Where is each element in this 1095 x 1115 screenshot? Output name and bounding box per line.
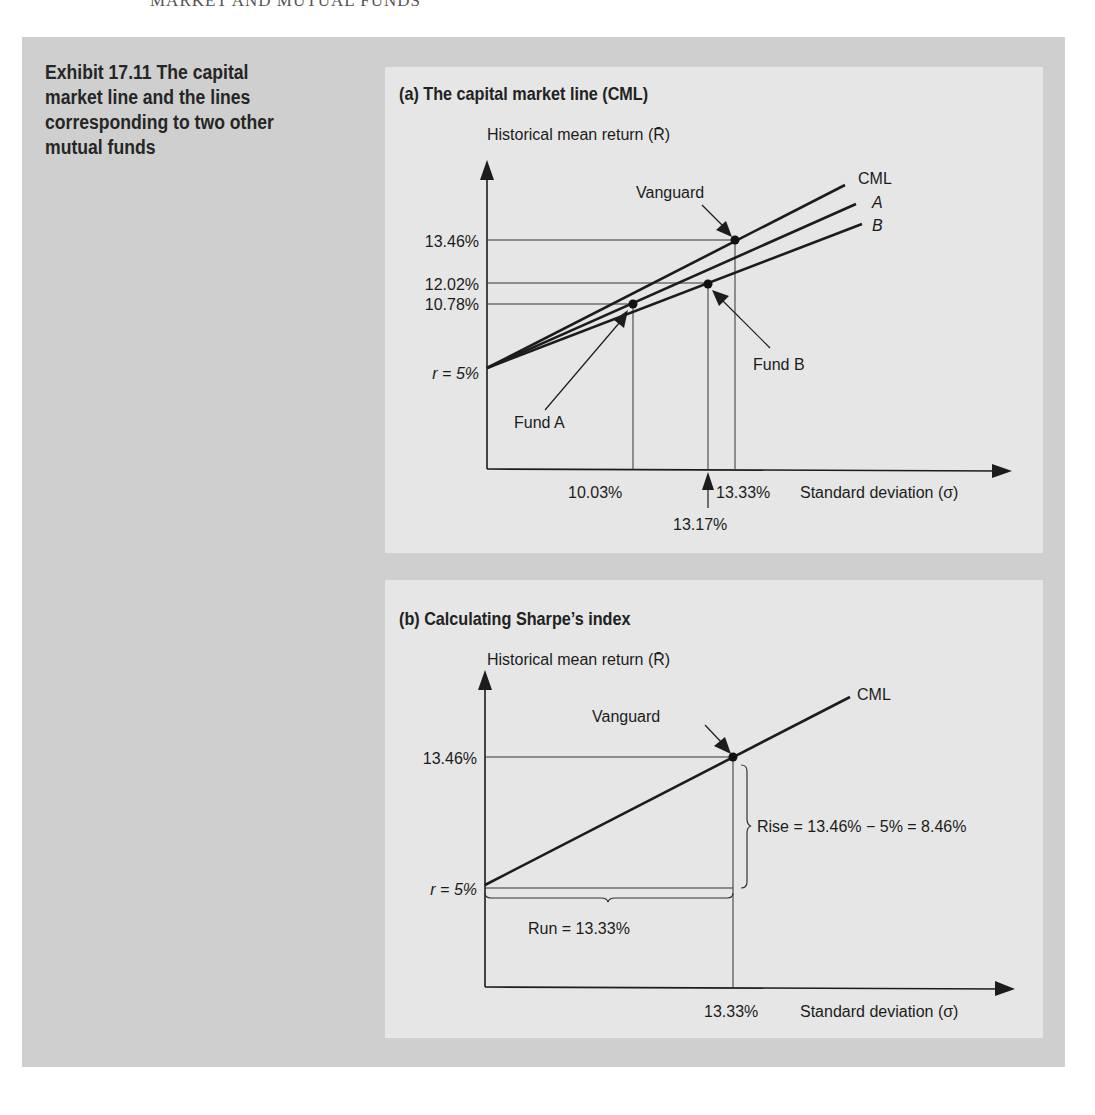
panel-b-y-axis-label: Historical mean return (R̄) (487, 651, 670, 668)
panel-b: (b) Calculating Sharpe’s index Historica… (385, 580, 1043, 1038)
y-axis-arrow-icon (478, 670, 492, 690)
fund-b-arrow-icon (712, 290, 729, 306)
x-tick-13-33: 13.33% (716, 484, 770, 501)
running-header: MARKET AND MUTUAL FUNDS (150, 0, 421, 11)
cml-label: CML (858, 170, 892, 187)
x-tick-13-33: 13.33% (704, 1003, 758, 1020)
exhibit-title-line: mutual funds (45, 135, 335, 160)
y-tick-13-46: 13.46% (423, 750, 477, 767)
y-tick-10-78: 10.78% (425, 296, 479, 313)
panel-a-title: (a) The capital market line (CML) (399, 84, 648, 104)
y-tick-13-46: 13.46% (425, 233, 479, 250)
rise-label: Rise = 13.46% − 5% = 8.46% (757, 818, 966, 835)
x-axis-arrow-icon (992, 464, 1012, 478)
exhibit-title: Exhibit 17.11 The capital market line an… (45, 60, 335, 160)
line-b (487, 224, 862, 368)
vanguard-point (729, 753, 738, 762)
panel-b-chart: (b) Calculating Sharpe’s index Historica… (385, 580, 1043, 1038)
vanguard-label: Vanguard (636, 184, 704, 201)
line-a (487, 204, 856, 368)
cml-line (487, 185, 845, 368)
y-tick-rf: r = 5% (432, 365, 479, 382)
exhibit-title-line: market line and the lines (45, 85, 335, 110)
cml-line (485, 697, 850, 885)
cml-label: CML (857, 686, 891, 703)
vanguard-arrow-icon (716, 221, 732, 237)
x-axis-arrow-icon (995, 981, 1015, 996)
y-axis-arrow-icon (480, 160, 494, 180)
line-b-label: B (872, 217, 883, 234)
y-tick-rf: r = 5% (430, 881, 477, 898)
panel-a-chart: (a) The capital market line (CML) Histor… (385, 67, 1043, 553)
x-tick-10-03: 10.03% (568, 484, 622, 501)
panel-b-x-axis-label: Standard deviation (σ) (800, 1003, 958, 1020)
run-label: Run = 13.33% (528, 920, 630, 937)
fund-b-point (704, 280, 713, 289)
panel-a-x-axis-label: Standard deviation (σ) (800, 484, 958, 501)
panel-a: (a) The capital market line (CML) Histor… (385, 67, 1043, 553)
panel-b-title: (b) Calculating Sharpe’s index (399, 609, 631, 629)
fund-a-point (629, 300, 638, 309)
x-axis (487, 469, 1000, 471)
exhibit-title-line: corresponding to two other (45, 110, 335, 135)
x-axis (485, 987, 1003, 989)
fund-a-arrow-icon (614, 310, 628, 328)
rise-brace (741, 765, 751, 888)
run-brace (485, 893, 733, 902)
fund-a-label: Fund A (514, 414, 565, 431)
vanguard-arrow-icon (714, 737, 731, 754)
y-tick-12-02: 12.02% (425, 276, 479, 293)
fund-b-label: Fund B (753, 356, 805, 373)
x-tick-13-17: 13.17% (673, 516, 727, 533)
panel-a-y-axis-label: Historical mean return (R̄) (487, 126, 670, 143)
exhibit-title-line: Exhibit 17.11 The capital (45, 60, 335, 85)
vanguard-label: Vanguard (592, 708, 660, 725)
line-a-label: A (871, 194, 883, 211)
x-tick-13-17-arrow-icon (702, 472, 714, 490)
